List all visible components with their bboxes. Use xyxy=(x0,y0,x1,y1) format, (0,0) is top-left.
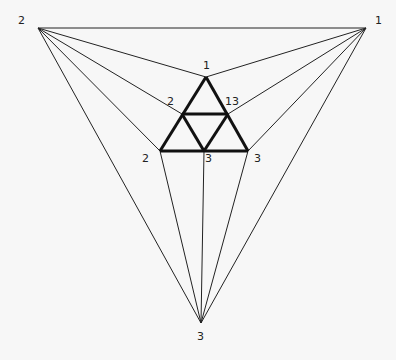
vertex-label-b: 3 xyxy=(197,330,204,343)
vertex-label-mr: 13 xyxy=(225,95,239,108)
vertex-label-tl: 2 xyxy=(18,14,25,27)
edge-tr-mr xyxy=(228,28,366,114)
vertex-label-bl: 2 xyxy=(142,152,149,165)
inner-edge-mr-bm xyxy=(204,114,228,151)
triangulation-diagram: 2131213233 xyxy=(0,0,396,360)
vertex-label-bm: 3 xyxy=(205,152,212,165)
inner-triangle-edges xyxy=(160,77,248,151)
edge-b-bl xyxy=(160,151,201,323)
edge-tr-b xyxy=(201,28,366,323)
inner-edge-ml-bm xyxy=(182,114,204,151)
vertex-label-tr: 1 xyxy=(375,14,382,27)
vertex-label-br: 3 xyxy=(254,152,261,165)
vertex-label-ml: 2 xyxy=(167,95,174,108)
edge-b-bm xyxy=(201,151,204,323)
edge-tl-a xyxy=(38,28,206,77)
thin-edges xyxy=(38,28,366,323)
edge-b-br xyxy=(201,151,248,323)
vertex-label-a: 1 xyxy=(203,59,210,72)
edge-tl-b xyxy=(38,28,201,323)
